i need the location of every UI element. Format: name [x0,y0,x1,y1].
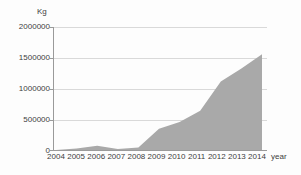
chart-plot-area [49,27,267,151]
x-axis-tick-label: 2004 [47,152,65,162]
y-axis-tick-label: 1500000 [0,53,50,63]
y-axis-tick-label: 0 [0,146,50,156]
x-axis-tick-label: 2008 [127,152,145,162]
x-axis-tick-label: 2007 [107,152,125,162]
x-axis-tick-label: 2012 [208,152,226,162]
y-axis-tick-label: 2000000 [0,22,50,32]
area-series [56,54,262,151]
x-axis-tick-label: 2013 [228,152,246,162]
y-axis-title: Kg [37,7,47,17]
y-axis-tick-label: 500000 [0,115,50,125]
x-axis-tick-label: 2005 [67,152,85,162]
x-axis-tick-label: 2009 [148,152,166,162]
y-axis-tick-label: 1000000 [0,84,50,94]
x-axis-tick-label: 2011 [188,152,205,162]
x-axis-tick-label: 2014 [248,152,266,162]
x-axis-tick-label: 2006 [87,152,105,162]
area-chart: Kg 2000000150000010000005000000 20042005… [0,0,301,175]
x-axis-tick-label: 2010 [168,152,186,162]
x-axis-title: year [271,152,287,162]
